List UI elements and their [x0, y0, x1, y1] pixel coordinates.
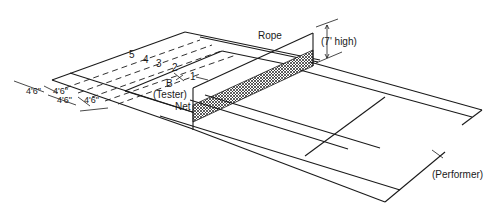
zone-2-label: 2 — [172, 62, 178, 73]
dimension-label-3: 4'6" — [57, 95, 72, 105]
zone-3-label: 3 — [156, 58, 162, 69]
net — [193, 33, 313, 130]
performer-marker-icon — [432, 150, 443, 158]
zone-5-label: 5 — [129, 49, 135, 60]
rope-label: Rope — [258, 30, 282, 41]
zone-4-label: 4 — [143, 54, 149, 65]
court-diagram: 5 4 3 2 1 B (Tester) Net 4'6" 4'6" 4'6" … — [0, 0, 497, 215]
tester-letter: B — [166, 78, 173, 89]
height-label: (7' high) — [321, 36, 357, 47]
dimension-label-4: 4'6" — [84, 95, 99, 105]
performer-label: (Performer) — [432, 169, 483, 180]
zone-1-label: 1 — [190, 71, 196, 82]
dimension-label-1: 4'6" — [26, 86, 41, 96]
near-court — [160, 62, 482, 202]
tester-label: (Tester) — [153, 89, 187, 100]
net-label: Net — [175, 101, 191, 112]
